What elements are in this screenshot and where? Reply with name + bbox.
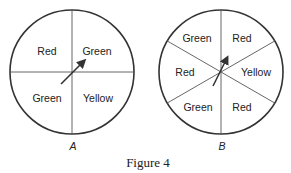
spinner-a: Red Green Green Yellow A: [10, 10, 134, 152]
spinner-b-section-lower-right: Red: [232, 101, 251, 113]
spinner-a-arrow-icon: [61, 61, 84, 84]
spinner-a-section-lower-right: Yellow: [83, 92, 113, 104]
spinner-b-section-right: Yellow: [241, 66, 271, 78]
spinner-a-section-upper-right: Green: [82, 45, 111, 57]
spinner-b-section-left: Red: [175, 66, 194, 78]
spinner-b-caption: B: [218, 140, 225, 152]
figure-caption: Figure 4: [126, 155, 170, 170]
spinner-b-section-lower-left: Green: [183, 101, 212, 113]
spinner-b-arrow-icon: [213, 58, 227, 86]
spinner-b-section-upper-left: Green: [182, 32, 211, 44]
spinner-a-section-upper-left: Red: [37, 45, 56, 57]
spinner-b-section-upper-right: Red: [232, 32, 251, 44]
spinner-b: Green Red Red Yellow Green Red B: [159, 10, 283, 152]
spinner-a-caption: A: [68, 140, 76, 152]
spinner-a-section-lower-left: Green: [32, 92, 61, 104]
figure-4-diagram: Red Green Green Yellow A Green Red Red Y…: [0, 0, 291, 173]
